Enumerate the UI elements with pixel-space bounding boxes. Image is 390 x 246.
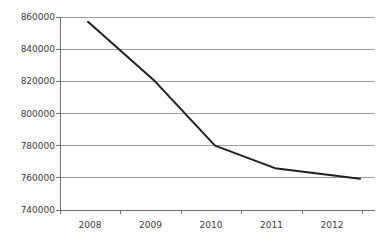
y-axis-tick-label: 800000 bbox=[21, 109, 55, 119]
data-series-line bbox=[88, 22, 360, 179]
x-axis-tick-label: 2009 bbox=[126, 220, 176, 230]
y-axis-tick: 760000 bbox=[0, 173, 55, 183]
y-axis-tick: 800000 bbox=[0, 109, 55, 119]
x-axis-tick-label: 2010 bbox=[186, 220, 236, 230]
y-axis-tick-label: 860000 bbox=[21, 12, 55, 22]
x-axis-tick-label: 2011 bbox=[247, 220, 297, 230]
y-axis-tick-label: 760000 bbox=[21, 173, 55, 183]
y-axis-tick-label: 740000 bbox=[21, 205, 55, 215]
chart-canvas bbox=[0, 0, 390, 246]
line-chart: 7400007600007800008000008200008400008600… bbox=[0, 0, 390, 246]
x-axis-ticks bbox=[60, 210, 362, 214]
y-axis-tick: 860000 bbox=[0, 12, 55, 22]
gridlines bbox=[56, 17, 375, 210]
y-axis-tick-label: 840000 bbox=[21, 44, 55, 54]
y-axis-tick-label: 820000 bbox=[21, 76, 55, 86]
y-axis-tick: 820000 bbox=[0, 76, 55, 86]
y-axis-tick: 840000 bbox=[0, 44, 55, 54]
y-axis-tick: 740000 bbox=[0, 205, 55, 215]
x-axis-tick-label: 2008 bbox=[65, 220, 115, 230]
y-axis-tick-label: 780000 bbox=[21, 141, 55, 151]
y-axis-tick: 780000 bbox=[0, 141, 55, 151]
x-axis-tick-label: 2012 bbox=[307, 220, 357, 230]
